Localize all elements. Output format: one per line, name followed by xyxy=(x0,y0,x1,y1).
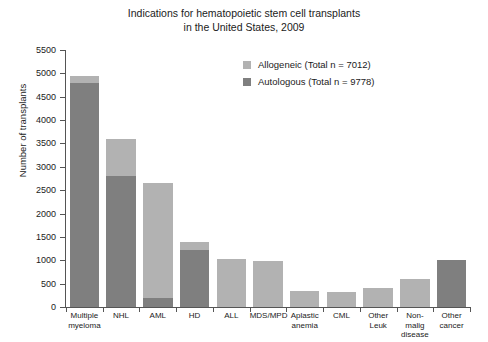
y-axis-tick-label: 0 xyxy=(16,302,56,312)
bar-segment-allogeneic xyxy=(290,291,319,307)
bar-segment-autologous xyxy=(106,176,135,307)
y-axis-tick xyxy=(60,143,65,144)
y-axis-tick-label: 3000 xyxy=(16,162,56,172)
y-axis-tick-label: 500 xyxy=(16,279,56,289)
bar-stack xyxy=(437,50,466,307)
bar-segment-allogeneic xyxy=(70,76,99,83)
bar-segment-autologous xyxy=(70,83,99,307)
legend-label-allogeneic: Allogeneic (Total n = 7012) xyxy=(258,59,371,70)
y-axis-tick xyxy=(60,190,65,191)
chart-container: Indications for hematopoietic stem cell … xyxy=(0,0,488,342)
x-axis-tick-label: Multiple myeloma xyxy=(66,311,103,330)
x-axis-tick-label: CML xyxy=(323,311,360,321)
y-axis-tick-label: 1500 xyxy=(16,232,56,242)
legend-swatch-allogeneic xyxy=(243,61,251,69)
y-axis-tick-label: 5000 xyxy=(16,68,56,78)
y-axis-tick-label: 1000 xyxy=(16,255,56,265)
y-axis-tick xyxy=(60,97,65,98)
bar-stack xyxy=(70,50,99,307)
y-axis-tick xyxy=(60,284,65,285)
y-axis-tick xyxy=(60,237,65,238)
bar-segment-allogeneic xyxy=(253,261,282,307)
legend-item-autologous: Autologous (Total n = 9778) xyxy=(243,73,374,90)
bar-segment-allogeneic xyxy=(217,259,246,307)
legend-item-allogeneic: Allogeneic (Total n = 7012) xyxy=(243,56,374,73)
x-axis-tick-label: ALL xyxy=(213,311,250,321)
bar-segment-allogeneic xyxy=(143,183,172,297)
y-axis-tick-labels: 0500100015002000250030003500400045005000… xyxy=(12,0,56,342)
bar-segment-allogeneic xyxy=(400,279,429,307)
x-axis-tick-label: Non- malig disease xyxy=(397,311,434,340)
y-axis-tick xyxy=(60,73,65,74)
bar-stack xyxy=(217,50,246,307)
bar-segment-allogeneic xyxy=(180,242,209,250)
x-axis-line xyxy=(65,307,471,308)
x-axis-tick-label: AML xyxy=(139,311,176,321)
x-axis-tick-label: HD xyxy=(176,311,213,321)
bar-segment-allogeneic xyxy=(363,288,392,307)
x-axis-tick-label: NHL xyxy=(103,311,140,321)
y-axis-tick-label: 2500 xyxy=(16,185,56,195)
y-axis-tick xyxy=(60,120,65,121)
x-axis-tick-label: Other Leuk xyxy=(360,311,397,330)
bar-segment-autologous xyxy=(437,260,466,307)
bar-segment-allogeneic xyxy=(106,139,135,176)
y-axis-tick-label: 5500 xyxy=(16,45,56,55)
chart-title: Indications for hematopoietic stem cell … xyxy=(0,6,488,34)
y-axis-tick-label: 3500 xyxy=(16,138,56,148)
bar-stack xyxy=(180,50,209,307)
legend-label-autologous: Autologous (Total n = 9778) xyxy=(258,76,374,87)
bar-segment-allogeneic xyxy=(327,292,356,307)
x-axis-tick-label: Other cancer xyxy=(433,311,470,330)
x-axis-tick xyxy=(470,307,471,312)
chart-legend: Allogeneic (Total n = 7012) Autologous (… xyxy=(243,56,374,90)
bar-stack xyxy=(143,50,172,307)
y-axis-tick xyxy=(60,167,65,168)
y-axis-tick-label: 2000 xyxy=(16,209,56,219)
y-axis-tick xyxy=(60,214,65,215)
legend-swatch-autologous xyxy=(243,78,251,86)
x-axis-tick-label: MDS/MPD xyxy=(250,311,287,321)
bar-segment-autologous xyxy=(143,298,172,307)
y-axis-tick xyxy=(60,260,65,261)
y-axis-tick-label: 4000 xyxy=(16,115,56,125)
y-axis-tick xyxy=(60,50,65,51)
y-axis-tick-label: 4500 xyxy=(16,92,56,102)
bar-segment-autologous xyxy=(180,250,209,307)
y-axis-tick xyxy=(60,307,65,308)
bar-stack xyxy=(400,50,429,307)
bar-stack xyxy=(106,50,135,307)
x-axis-tick-label: Aplastic anemia xyxy=(286,311,323,330)
